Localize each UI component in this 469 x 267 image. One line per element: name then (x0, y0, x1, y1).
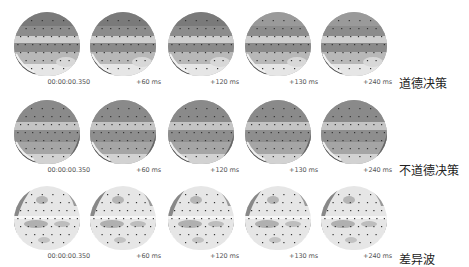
scalp-map-immoral-240 (321, 100, 387, 164)
scalp-map-moral-130 (245, 12, 311, 76)
scalp-map-diff-130 (245, 186, 311, 250)
scalp-map-diff-120 (168, 186, 234, 250)
scalp-map-immoral-60 (90, 100, 156, 164)
time-label-130: +130 ms (258, 78, 318, 86)
time-label-60: +60 ms (101, 252, 161, 260)
scalp-map-diff-350 (14, 186, 80, 250)
time-label-240: +240 ms (332, 252, 392, 260)
row-moral-decision: 00:00:00.350 +60 ms +120 ms +130 ms +240… (0, 0, 469, 86)
scalp-map-immoral-120 (168, 100, 234, 164)
time-label-350: 00:00:00.350 (30, 252, 90, 260)
time-label-240: +240 ms (332, 166, 392, 174)
scalp-map-moral-350 (14, 12, 80, 76)
scalp-map-diff-60 (90, 186, 156, 250)
scalp-map-immoral-130 (245, 100, 311, 164)
row-immoral-decision: 00:00:00.350 +60 ms +120 ms +130 ms +240… (0, 88, 469, 174)
time-label-130: +130 ms (258, 166, 318, 174)
time-label-350: 00:00:00.350 (30, 78, 90, 86)
row-difference-wave: 00:00:00.350 +60 ms +120 ms +130 ms +240… (0, 174, 469, 260)
time-label-130: +130 ms (258, 252, 318, 260)
scalp-map-diff-240 (321, 186, 387, 250)
time-label-120: +120 ms (179, 252, 239, 260)
row-label-difference: 差异波 (399, 250, 435, 267)
scalp-map-moral-60 (90, 12, 156, 76)
scalp-map-immoral-350 (14, 100, 80, 164)
time-label-120: +120 ms (179, 78, 239, 86)
scalp-map-moral-120 (168, 12, 234, 76)
time-label-60: +60 ms (101, 166, 161, 174)
time-label-60: +60 ms (101, 78, 161, 86)
time-label-240: +240 ms (332, 78, 392, 86)
time-label-120: +120 ms (179, 166, 239, 174)
time-label-350: 00:00:00.350 (30, 166, 90, 174)
scalp-map-moral-240 (321, 12, 387, 76)
